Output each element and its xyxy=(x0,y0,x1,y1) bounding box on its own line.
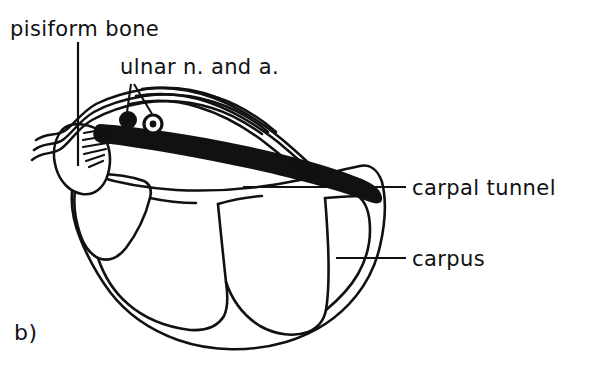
anatomical-figure: pisiform bone ulnar n. and a. carpal tun… xyxy=(0,0,589,365)
label-ulnar-nerve-and-artery: ulnar n. and a. xyxy=(120,55,279,79)
label-carpus: carpus xyxy=(412,247,485,271)
label-carpal-tunnel: carpal tunnel xyxy=(412,176,556,200)
label-pisiform-bone: pisiform bone xyxy=(10,17,159,41)
ulnar-nerve-marker xyxy=(119,111,137,129)
panel-label: b) xyxy=(14,320,38,345)
wrist-cross-section-drawing: pisiform bone ulnar n. and a. carpal tun… xyxy=(0,0,589,365)
ulnar-artery-lumen xyxy=(150,121,157,128)
